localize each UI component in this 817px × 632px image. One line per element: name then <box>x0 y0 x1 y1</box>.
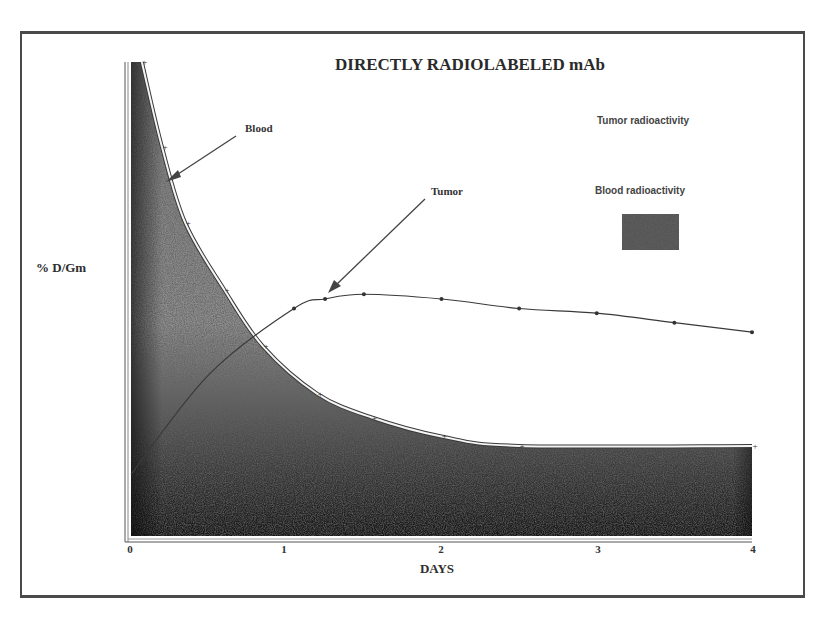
x-tick-2: 2 <box>438 543 444 555</box>
tumor-markers <box>292 292 754 334</box>
blood-marker-plus-icon: + <box>186 218 191 228</box>
tumor-marker-dot-icon <box>672 321 676 325</box>
tumor-marker-dot-icon <box>750 330 754 334</box>
x-tick-3: 3 <box>595 543 601 555</box>
tumor-annotation-label: Tumor <box>431 185 463 197</box>
blood-annotation-label: Blood <box>245 122 273 134</box>
tumor-marker-dot-icon <box>323 297 327 301</box>
chart-title: DIRECTLY RADIOLABELED mAb <box>335 55 605 74</box>
legend: Tumor radioactivity Blood radioactivity <box>595 115 689 250</box>
tumor-marker-dot-icon <box>292 306 296 310</box>
blood-marker-plus-icon: + <box>142 57 147 67</box>
legend-item-tumor: Tumor radioactivity <box>597 115 689 126</box>
tumor-marker-dot-icon <box>440 297 444 301</box>
blood-marker-plus-icon: + <box>263 341 268 351</box>
blood-marker-plus-icon: + <box>318 389 323 399</box>
blood-marker-plus-icon: + <box>442 431 447 441</box>
x-tick-4: 4 <box>750 543 756 555</box>
tumor-marker-dot-icon <box>595 311 599 315</box>
blood-marker-plus-icon: + <box>225 285 230 295</box>
blood-arrow-icon <box>166 136 236 182</box>
blood-marker-plus-icon: + <box>752 441 757 451</box>
chart: ++++++++++ DIRECTLY RADIOLABELED mAb Blo… <box>0 0 817 632</box>
y-axis-label: % D/Gm <box>36 260 86 275</box>
tumor-arrow-icon <box>328 199 425 293</box>
blood-marker-plus-icon: + <box>163 142 168 152</box>
x-tick-0: 0 <box>127 543 133 555</box>
x-tick-labels: 0 1 2 3 4 <box>127 543 756 555</box>
page-bleed-through-text <box>60 612 800 622</box>
tumor-marker-dot-icon <box>517 306 521 310</box>
legend-item-blood: Blood radioactivity <box>595 185 685 196</box>
blood-marker-plus-icon: + <box>520 441 525 451</box>
blood-area: ++++++++++ <box>131 57 758 536</box>
x-axis-label: DAYS <box>420 561 454 576</box>
blood-marker-plus-icon: + <box>372 413 377 423</box>
tumor-marker-dot-icon <box>362 292 366 296</box>
x-tick-1: 1 <box>281 543 287 555</box>
